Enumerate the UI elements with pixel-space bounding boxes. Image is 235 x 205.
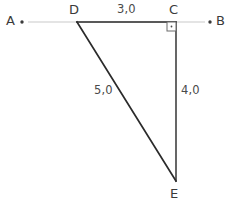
vertex-label-b: B	[216, 14, 225, 27]
point-a-dot	[20, 20, 23, 23]
vertex-label-c: C	[169, 3, 178, 16]
segment-de	[77, 22, 176, 181]
measure-label-de: 5,0	[94, 85, 113, 97]
measure-label-dc: 3,0	[117, 4, 136, 16]
vertex-label-a: A	[6, 14, 15, 27]
geometry-figure: A B C D E 3,0 5,0 4,0	[0, 0, 235, 205]
measure-label-ce: 4,0	[181, 85, 200, 97]
vertex-label-d: D	[69, 3, 79, 16]
vertex-label-e: E	[170, 187, 178, 200]
geometry-canvas	[0, 0, 235, 205]
right-angle-dot-icon	[171, 26, 173, 28]
point-b-dot	[208, 20, 211, 23]
